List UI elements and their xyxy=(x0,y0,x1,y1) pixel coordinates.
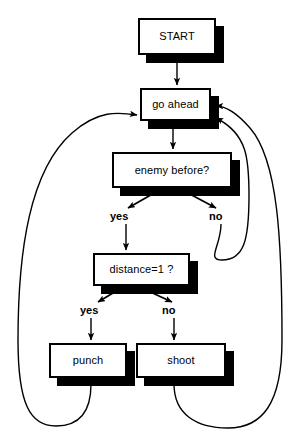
node-distance[interactable]: distance=1 ? xyxy=(93,253,190,286)
edge-label-distance-yes: yes xyxy=(80,305,98,316)
node-go-ahead-label: go ahead xyxy=(152,99,199,110)
edge-label-enemy-yes: yes xyxy=(110,211,128,222)
node-punch-label: punch xyxy=(73,355,103,366)
edge-label-enemy-no: no xyxy=(209,211,222,222)
node-punch[interactable]: punch xyxy=(49,343,127,378)
node-shoot-label: shoot xyxy=(167,355,194,366)
node-shoot[interactable]: shoot xyxy=(136,343,226,378)
node-start[interactable]: START xyxy=(138,18,216,55)
node-enemy-before-label: enemy before? xyxy=(135,165,210,176)
edge-label-distance-no: no xyxy=(162,305,175,316)
node-distance-label: distance=1 ? xyxy=(110,264,174,275)
flowchart-canvas: START go ahead enemy before? distance=1 … xyxy=(0,0,302,443)
node-go-ahead[interactable]: go ahead xyxy=(140,88,211,121)
node-enemy-before[interactable]: enemy before? xyxy=(112,152,232,188)
node-start-label: START xyxy=(159,31,195,42)
